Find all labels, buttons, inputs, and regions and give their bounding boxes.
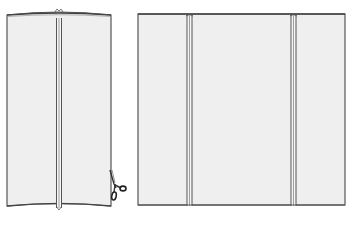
flat-panel: [138, 14, 345, 206]
panel-body: [138, 14, 345, 205]
illustration: Line illustration of a fabric panel with…: [0, 0, 349, 226]
diagram-canvas: [0, 0, 349, 226]
panel-seam-right: [290, 15, 297, 207]
tube-seam: [57, 18, 62, 208]
scissors-icon: [110, 170, 126, 200]
panel-seam-left: [186, 15, 193, 207]
rolled-tube: [7, 9, 111, 210]
